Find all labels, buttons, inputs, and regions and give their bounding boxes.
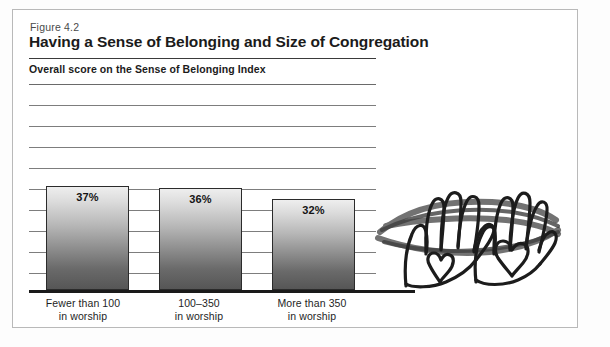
header-rule-top [29, 58, 376, 59]
category-label-line-2: in worship [245, 310, 379, 323]
bar-more-than-350[interactable]: 32% [272, 199, 355, 290]
x-axis-baseline [29, 290, 415, 293]
category-label-line-1: 100–350 [178, 297, 220, 309]
category-label-line-1: Fewer than 100 [46, 297, 120, 309]
figure-subtitle: Overall score on the Sense of Belonging … [29, 63, 266, 75]
bar-fewer-than-100[interactable]: 37% [46, 186, 129, 290]
bar-value-label: 32% [273, 204, 354, 216]
gridline [29, 168, 376, 169]
gridline [29, 105, 376, 106]
figure-number: Figure 4.2 [30, 21, 79, 33]
category-label-fewer-than-100: Fewer than 100 in worship [16, 297, 150, 322]
hands-and-hearts-scribble-icon [372, 186, 562, 290]
category-label-more-than-350: More than 350 in worship [245, 297, 379, 322]
gridline [29, 147, 376, 148]
gridline [29, 126, 376, 127]
bar-100-350[interactable]: 36% [159, 188, 242, 290]
bar-value-label: 36% [160, 193, 241, 205]
chart-plot-area: 37% 36% 32% [29, 84, 376, 292]
category-label-line-1: More than 350 [277, 297, 346, 309]
bar-value-label: 37% [47, 191, 128, 203]
category-label-line-2: in worship [16, 310, 150, 323]
figure-title: Having a Sense of Belonging and Size of … [29, 33, 429, 51]
